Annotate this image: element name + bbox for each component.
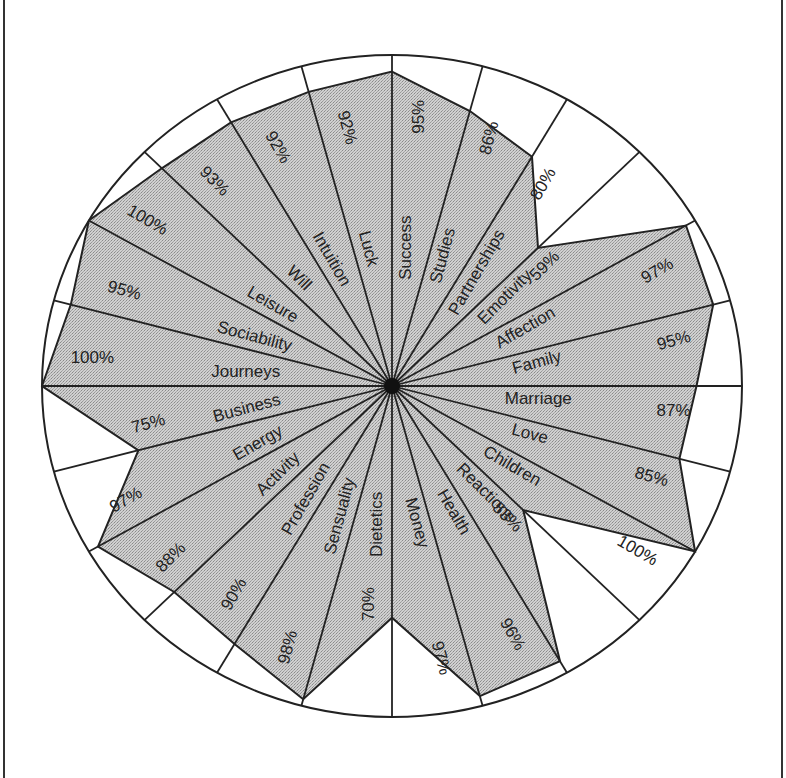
- value-label: 100%: [71, 348, 114, 367]
- center-hub: [384, 378, 400, 394]
- category-label: Dietetics: [367, 492, 386, 557]
- value-label: 95%: [409, 100, 428, 134]
- value-label: 87%: [657, 401, 691, 420]
- chart-plot-area: Success95%Studies86%Partnerships80%Emoti…: [42, 55, 742, 717]
- radar-chart: Success95%Studies86%Partnerships80%Emoti…: [0, 0, 786, 778]
- category-label: Journeys: [211, 362, 280, 381]
- category-label: Marriage: [505, 389, 572, 408]
- value-label: 70%: [359, 587, 378, 621]
- category-label: Success: [396, 215, 415, 279]
